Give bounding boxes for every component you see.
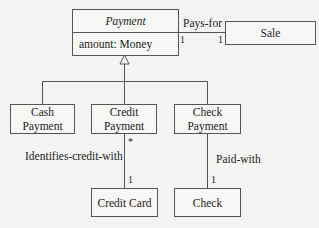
class-check-name: Check	[193, 196, 222, 210]
class-check-payment-line2: Payment	[187, 119, 227, 133]
class-check[interactable]: Check	[174, 188, 241, 217]
association-paid-with-label: Paid-with	[216, 153, 261, 165]
class-cash-payment-line1: Cash	[31, 105, 54, 119]
class-sale[interactable]: Sale	[225, 21, 316, 45]
class-cash-payment-line2: Payment	[22, 119, 62, 133]
class-credit-card-name: Credit Card	[98, 196, 152, 210]
mult-payment-sale-from: 1	[180, 35, 185, 45]
class-sale-name: Sale	[261, 26, 281, 40]
class-payment-attribute: amount: Money	[73, 33, 178, 55]
mult-credit-payment-from: *	[128, 137, 133, 147]
mult-payment-sale-to: 1	[218, 35, 223, 45]
association-pays-for-label: Pays-for	[183, 17, 222, 29]
class-credit-payment[interactable]: Credit Payment	[91, 104, 157, 134]
uml-diagram: Payment amount: Money Sale Pays-for 1 1 …	[0, 0, 319, 228]
class-check-payment-line1: Check	[193, 105, 222, 119]
class-credit-card[interactable]: Credit Card	[91, 188, 158, 217]
class-payment[interactable]: Payment amount: Money	[72, 9, 179, 56]
class-check-payment[interactable]: Check Payment	[174, 104, 241, 134]
mult-check-to: 1	[211, 175, 216, 185]
mult-credit-card-to: 1	[128, 175, 133, 185]
class-cash-payment[interactable]: Cash Payment	[10, 104, 75, 134]
class-credit-payment-line1: Credit	[110, 105, 139, 119]
association-identifies-credit-with-label: Identifies-credit-with	[25, 150, 123, 162]
class-credit-payment-line2: Payment	[104, 119, 144, 133]
class-payment-name: Payment	[73, 10, 178, 33]
